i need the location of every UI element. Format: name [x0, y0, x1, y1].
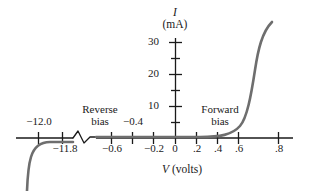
x-tick-label-neg-0-2: −0.2: [144, 143, 164, 155]
y-axis-unit: (mA): [163, 18, 188, 30]
forward-bias-annotation: Forward bias: [201, 104, 238, 128]
forward-bias-line-2: bias: [201, 116, 238, 128]
x-axis-symbol: V: [162, 163, 169, 175]
reverse-bias-annotation: Reverse bias: [82, 104, 117, 128]
reverse-bias-line-2: bias: [82, 116, 117, 128]
x-tick-label-neg-12-0: −12.0: [26, 116, 51, 128]
x-axis-title: V (volts): [162, 163, 202, 175]
x-axis-unit: (volts): [172, 163, 202, 175]
x-tick-label-neg-0-4: −0.4: [123, 116, 143, 128]
y-axis-symbol: I: [163, 6, 188, 18]
plot-canvas: [0, 0, 309, 191]
y-tick-label-30: 30: [148, 36, 159, 48]
y-tick-label-20: 20: [148, 68, 159, 80]
x-tick-label-0-4: .4: [214, 143, 222, 155]
x-tick-label-neg-0-6: −0.6: [102, 143, 122, 155]
x-tick-label-neg-11-8: −11.8: [52, 143, 77, 155]
diode-iv-characteristic-figure: I (mA) 30 20 10 −12.0 −11.8 −0.6 −0.4 −0…: [0, 0, 309, 191]
x-tick-label-0-2: .2: [193, 143, 201, 155]
x-tick-label-0-6: .6: [235, 143, 243, 155]
x-tick-label-0: 0: [172, 143, 178, 155]
y-axis-title: I (mA): [163, 6, 188, 31]
y-tick-label-10: 10: [148, 100, 159, 112]
x-tick-label-0-8: .8: [275, 143, 283, 155]
